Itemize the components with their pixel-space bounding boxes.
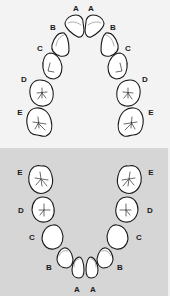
upper-right-tooth-c	[108, 53, 127, 79]
label-upper-left-c: C	[37, 45, 43, 53]
label-lower-right-d: D	[147, 207, 153, 215]
label-lower-right-c: C	[136, 234, 142, 242]
label-lower-right-a: A	[90, 286, 96, 294]
upper-left-tooth-c	[43, 53, 62, 79]
label-lower-right-e: E	[148, 169, 153, 177]
label-lower-left-d: D	[18, 207, 24, 215]
upper-right-tooth-a	[85, 15, 104, 37]
label-upper-left-e: E	[17, 109, 22, 117]
label-lower-left-c: C	[29, 234, 35, 242]
label-lower-left-a: A	[74, 286, 80, 294]
label-lower-left-e: E	[17, 169, 22, 177]
lower-right-tooth-d	[116, 197, 138, 222]
lower-right-tooth-a	[86, 257, 98, 278]
upper-left-tooth-a	[65, 15, 84, 37]
lower-left-tooth-d	[32, 197, 54, 222]
label-upper-left-b: B	[50, 24, 56, 32]
label-upper-right-a: A	[88, 5, 94, 13]
label-upper-right-e: E	[148, 109, 153, 117]
lower-right-tooth-c	[107, 225, 128, 249]
dental-arch-diagram: A A B B C C D D E E E E D D C C B B A A	[0, 0, 170, 296]
label-lower-left-b: B	[46, 264, 52, 272]
label-upper-right-d: D	[142, 76, 148, 84]
upper-right-tooth-d	[117, 80, 140, 106]
label-upper-left-d: D	[21, 76, 27, 84]
label-upper-left-a: A	[73, 5, 79, 13]
teeth-illustration	[0, 0, 170, 296]
lower-left-tooth-a	[72, 257, 84, 278]
lower-left-tooth-c	[42, 225, 63, 249]
label-upper-right-c: C	[125, 45, 131, 53]
upper-left-tooth-d	[30, 80, 53, 106]
label-upper-right-b: B	[110, 24, 116, 32]
label-lower-right-b: B	[117, 264, 123, 272]
